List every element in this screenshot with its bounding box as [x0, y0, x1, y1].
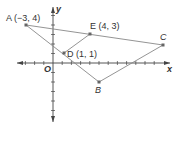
label-e: E (4, 3)	[90, 21, 120, 31]
label-d: D (1, 1)	[67, 49, 97, 59]
y-arrow-up-icon	[51, 7, 55, 13]
segment-bc	[99, 45, 163, 82]
origin-label: O	[44, 64, 51, 74]
point-a	[25, 24, 28, 27]
coordinate-diagram: A (−3, 4) E (4, 3) C D (1, 1) B O x y	[0, 0, 175, 143]
y-axis-label: y	[55, 4, 62, 14]
x-arrow-left-icon	[17, 61, 23, 65]
y-arrow-down-icon	[51, 116, 55, 122]
point-d	[63, 52, 66, 55]
label-a: A (−3, 4)	[6, 13, 40, 23]
point-c	[162, 44, 165, 47]
point-b	[98, 81, 101, 84]
label-b: B	[95, 85, 101, 95]
label-c: C	[160, 32, 167, 42]
point-e	[89, 33, 92, 36]
x-axis-label: x	[166, 64, 173, 74]
